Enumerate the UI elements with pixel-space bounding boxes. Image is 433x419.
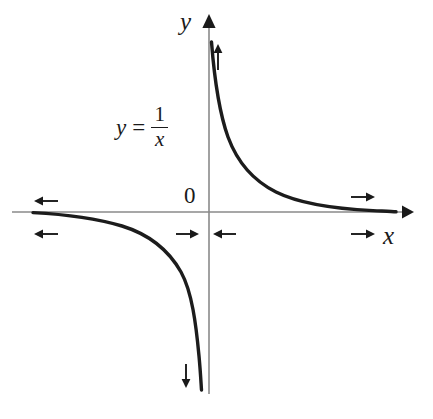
graph-canvas	[0, 0, 433, 419]
arrow-right-inner	[176, 230, 199, 239]
equation-label: y = 1 x	[116, 104, 168, 151]
x-axis-label: x	[383, 222, 394, 250]
y-axis-label: y	[180, 8, 191, 36]
equation-relation: =	[131, 115, 146, 141]
hyperbola-figure: y x 0 y = 1 x	[0, 0, 433, 419]
arrow-left-lower-far	[34, 230, 58, 239]
fraction-numerator: 1	[151, 104, 168, 126]
curve-branch-negative	[33, 213, 202, 390]
arrow-left-inner	[213, 230, 236, 239]
y-axis-arrowhead	[202, 14, 215, 28]
equation-lhs: y	[116, 115, 126, 141]
curve-branch-positive	[212, 42, 397, 212]
equation-fraction: 1 x	[151, 104, 168, 151]
fraction-denominator: x	[152, 129, 167, 151]
origin-label: 0	[184, 183, 196, 209]
x-axis-arrowhead	[402, 205, 414, 218]
arrow-right-lower-far	[351, 230, 375, 239]
arrow-left-upper-far	[34, 197, 58, 206]
arrow-right-upper-far	[351, 193, 375, 202]
arrow-down-near-y-axis	[182, 364, 191, 388]
